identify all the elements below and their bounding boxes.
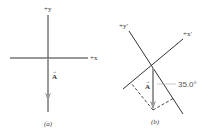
panel-caption: (b) <box>151 118 160 126</box>
vector-label: A <box>52 73 57 81</box>
vector-label: A <box>145 83 150 91</box>
vector-diagram: +y +x → A (a) +y′ +x′ → A 35.0° (b) <box>0 0 209 135</box>
angle-label: 35.0° <box>178 80 197 89</box>
y-axis-label: +y <box>44 5 52 13</box>
panel-a: +y +x → A (a) <box>10 5 98 128</box>
panel-caption: (a) <box>44 120 53 128</box>
y-prime-axis <box>129 31 183 114</box>
x-prime-axis-label: +x′ <box>183 30 192 38</box>
y-prime-axis-label: +y′ <box>119 22 128 30</box>
dashed-component-y <box>153 98 174 110</box>
panel-b: +y′ +x′ → A 35.0° (b) <box>119 22 197 126</box>
x-axis-label: +x <box>90 54 98 62</box>
